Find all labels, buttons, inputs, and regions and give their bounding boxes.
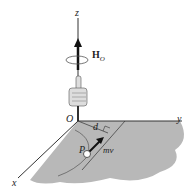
ho-subscript: O [100, 55, 105, 63]
y-axis-label: y [177, 114, 181, 124]
x-axis-label: x [12, 178, 16, 188]
momentum-label: mv [103, 146, 114, 155]
right-hand-icon [69, 76, 87, 106]
ho-label: HO [92, 50, 105, 63]
ho-arrowhead-icon [74, 38, 82, 47]
diagram-canvas [0, 0, 196, 191]
z-axis-label: z [75, 8, 79, 18]
particle-label: P [79, 145, 85, 155]
origin-label: O [66, 114, 73, 124]
ho-symbol: H [92, 49, 100, 60]
distance-label: d [93, 122, 98, 132]
